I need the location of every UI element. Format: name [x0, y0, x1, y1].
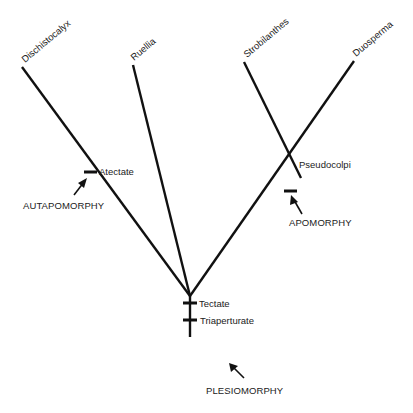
- branch-strobilanthes: [244, 62, 301, 178]
- branch-duosperma: [190, 61, 354, 296]
- cladogram: Dischistocalyx Ruellia Strobilanthes Duo…: [0, 0, 413, 413]
- arrow-icon-autapomorphy: [74, 178, 87, 195]
- character-label-triaperturate: Triaperturate: [200, 315, 254, 326]
- arrow-icon-plesiomorphy: [229, 363, 244, 378]
- character-label-pseudocolpi: Pseudocolpi: [299, 159, 351, 170]
- annotation-apomorphy: APOMORPHY: [289, 217, 352, 228]
- branch-ruellia: [133, 65, 190, 296]
- branch-dischistocalyx: [22, 67, 190, 296]
- annotation-autapomorphy: AUTAPOMORPHY: [23, 200, 105, 211]
- character-label-tectate: Tectate: [199, 298, 230, 309]
- arrow-icon-apomorphy: [290, 195, 302, 214]
- taxon-label-strobilanthes: Strobilanthes: [241, 15, 291, 59]
- taxon-label-ruellia: Ruellia: [128, 35, 158, 63]
- character-label-atectate: Atectate: [99, 166, 134, 177]
- taxon-label-dischistocalyx: Dischistocalyx: [19, 17, 72, 64]
- annotation-plesiomorphy: PLESIOMORPHY: [206, 385, 284, 396]
- taxon-label-duosperma: Duosperma: [350, 18, 395, 58]
